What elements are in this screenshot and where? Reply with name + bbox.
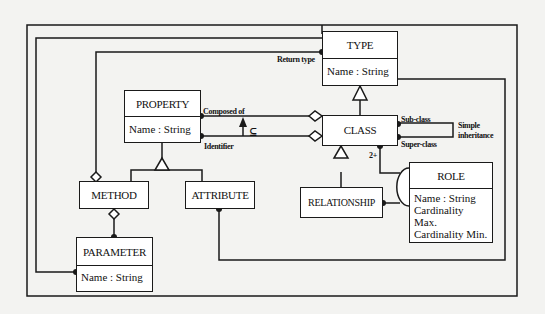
class-name-relationship: RELATIONSHIP	[301, 188, 382, 216]
label-multiplicity: 2+	[369, 151, 377, 160]
label-composed-of: Composed of	[203, 107, 244, 116]
generalization-triangle-property	[155, 158, 169, 170]
class-box-type: TYPE Name : String	[322, 31, 398, 86]
aggregation-diamond-composed	[309, 111, 322, 121]
class-box-property: PROPERTY Name : String	[124, 90, 201, 143]
class-attribute-property-name: Name : String	[125, 117, 200, 137]
label-sub-class: Sub-class	[401, 115, 430, 124]
class-attribute-type-name: Name : String	[323, 59, 397, 79]
class-box-role: ROLE Name : String Cardinality Max. Card…	[409, 162, 493, 243]
aggregation-diamond-identifier	[309, 131, 322, 141]
label-subset: ⊆	[249, 126, 257, 137]
class-name-role: ROLE	[410, 163, 492, 189]
class-box-method: METHOD	[79, 181, 149, 209]
subset-arrow-head	[239, 117, 247, 127]
label-super-class: Super-class	[401, 140, 437, 149]
class-name-parameter: PARAMETER	[77, 238, 152, 266]
class-box-parameter: PARAMETER Name : String	[76, 237, 153, 292]
label-simple-inheritance-1: Simple	[458, 121, 480, 130]
class-name-property: PROPERTY	[125, 91, 200, 117]
simple-inheritance-line	[398, 123, 453, 137]
generalization-triangle-class	[334, 146, 348, 158]
role-attribute-name: Name : String	[414, 192, 488, 204]
label-identifier: Identifier	[204, 142, 233, 151]
label-return-type: Return type	[277, 55, 315, 64]
label-simple-inheritance-2: inheritance	[458, 131, 493, 140]
class-name-method: METHOD	[80, 182, 148, 207]
role-attribute-cardinality-max: Cardinality Max.	[414, 204, 488, 228]
class-name-type: TYPE	[323, 32, 397, 59]
class-name-class: CLASS	[323, 116, 397, 144]
class-box-attribute: ATTRIBUTE	[185, 181, 255, 209]
class-attributes-role: Name : String Cardinality Max. Cardinali…	[410, 189, 492, 242]
generalization-triangle-type	[353, 86, 367, 100]
aggregation-diamond-method-param	[109, 209, 119, 219]
class-name-attribute: ATTRIBUTE	[186, 182, 254, 207]
class-box-relationship: RELATIONSHIP	[300, 187, 383, 218]
class-attribute-parameter-name: Name : String	[77, 266, 152, 285]
class-box-class: CLASS	[322, 115, 398, 146]
uml-diagram: TYPE Name : String PROPERTY Name : Strin…	[0, 0, 545, 314]
role-attribute-cardinality-min: Cardinality Min.	[414, 228, 488, 240]
